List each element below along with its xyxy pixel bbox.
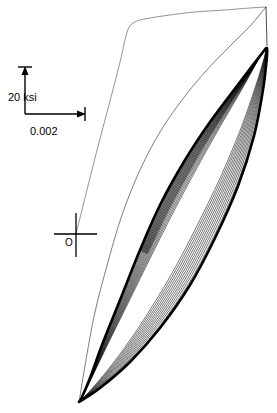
scale-vertical-label: 20 ksi [8,91,37,103]
hysteresis-figure: 20 ksi 0.002 O [0,0,277,413]
scale-horizontal-label: 0.002 [30,125,58,137]
hysteresis-plot-svg: 20 ksi 0.002 O [0,0,277,413]
origin-label: O [65,237,73,248]
